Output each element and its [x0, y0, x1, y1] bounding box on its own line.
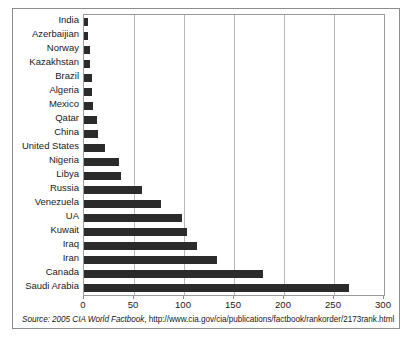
category-label: Kazakhstan — [1, 57, 79, 67]
category-label: Kuwait — [1, 225, 79, 235]
bar-row — [84, 57, 384, 71]
bar — [84, 60, 90, 68]
category-label: Libya — [1, 169, 79, 179]
category-label: United States — [1, 141, 79, 151]
bar-row — [84, 127, 384, 141]
bar-row — [84, 29, 384, 43]
category-label: Nigeria — [1, 155, 79, 165]
category-label: Russia — [1, 183, 79, 193]
category-label: Algeria — [1, 85, 79, 95]
x-axis: 050100150200250300 — [83, 296, 385, 312]
category-label: Canada — [1, 267, 79, 277]
category-label: Brazil — [1, 71, 79, 81]
bar — [84, 214, 182, 222]
bar — [84, 242, 197, 250]
bar — [84, 130, 98, 138]
bar — [84, 116, 97, 124]
bar — [84, 88, 92, 96]
bar — [84, 32, 88, 40]
bar — [84, 270, 263, 278]
x-tick-label: 250 — [325, 299, 341, 310]
plot-area — [83, 14, 385, 296]
bar — [84, 186, 142, 194]
source-prefix: Source: 2005 CIA World Factbook, — [22, 315, 147, 324]
bar — [84, 158, 119, 166]
bar-row — [84, 155, 384, 169]
bar-row — [84, 281, 384, 295]
category-label: Iraq — [1, 239, 79, 249]
bar-row — [84, 71, 384, 85]
bar-row — [84, 141, 384, 155]
bar — [84, 256, 217, 264]
bar-row — [84, 183, 384, 197]
source-note: Source: 2005 CIA World Factbook, http://… — [22, 315, 394, 324]
source-url: http://www.cia.gov/cia/publications/fact… — [149, 315, 395, 324]
category-label: Venezuela — [1, 197, 79, 207]
category-label: Norway — [1, 43, 79, 53]
bar — [84, 46, 90, 54]
category-label: Iran — [1, 253, 79, 263]
x-tick-label: 100 — [175, 299, 191, 310]
bar-row — [84, 43, 384, 57]
category-label: Qatar — [1, 113, 79, 123]
bar-row — [84, 225, 384, 239]
x-tick-label: 50 — [128, 299, 139, 310]
bar — [84, 74, 92, 82]
bar-row — [84, 169, 384, 183]
category-label: Saudi Arabia — [1, 281, 79, 291]
x-tick-label: 200 — [275, 299, 291, 310]
bar — [84, 18, 88, 26]
category-label: India — [1, 15, 79, 25]
bar-row — [84, 239, 384, 253]
category-label: Mexico — [1, 99, 79, 109]
bar — [84, 102, 93, 110]
bar-row — [84, 15, 384, 29]
bar-row — [84, 197, 384, 211]
x-tick-label: 150 — [225, 299, 241, 310]
bar — [84, 228, 187, 236]
y-axis-category-labels: IndiaAzerbaijianNorwayKazakhstanBrazilAl… — [0, 14, 79, 296]
x-tick-label: 0 — [80, 299, 85, 310]
bar-row — [84, 85, 384, 99]
category-label: Azerbaijian — [1, 29, 79, 39]
category-label: UA — [1, 211, 79, 221]
bar — [84, 284, 349, 292]
x-tick-label: 300 — [375, 299, 391, 310]
bar-row — [84, 99, 384, 113]
bar-row — [84, 267, 384, 281]
bar — [84, 172, 121, 180]
category-label: China — [1, 127, 79, 137]
bar-row — [84, 113, 384, 127]
bar — [84, 200, 161, 208]
bar — [84, 144, 105, 152]
bar-row — [84, 211, 384, 225]
figure: IndiaAzerbaijianNorwayKazakhstanBrazilAl… — [0, 0, 412, 341]
bar-row — [84, 253, 384, 267]
